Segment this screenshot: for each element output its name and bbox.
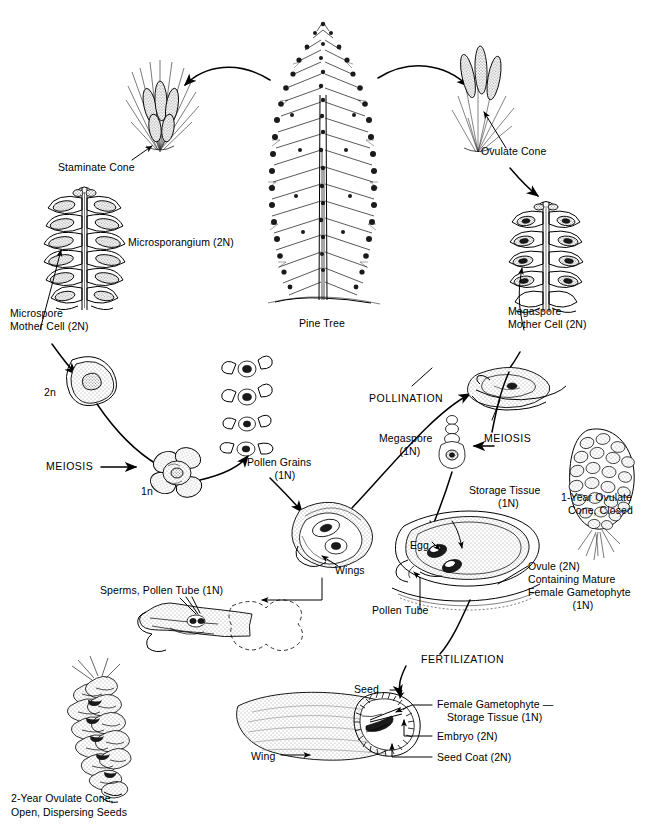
arrow-meiosis-left: [97, 404, 158, 465]
arrow-to-ovulate-section: [510, 168, 538, 196]
label-one-year-cone-line1: 1-Year Ovulate: [561, 491, 632, 504]
label-pollination: POLLINATION: [369, 392, 443, 405]
arrow-tetrad-to-pollen: [200, 456, 248, 480]
label-embryo: Embryo (2N): [437, 730, 498, 743]
label-seed: Seed: [354, 683, 379, 696]
arrow-tree-to-staminate: [185, 67, 270, 85]
label-one-year-cone-line2: Cone, Closed: [561, 504, 640, 517]
germinating-pollen-grain-illustration: [292, 502, 373, 567]
label-meiosis-left: MEIOSIS: [46, 460, 93, 473]
label-microsporangium: Microsporangium (2N): [128, 236, 234, 249]
label-pollen-grains-line2: (1N): [247, 469, 323, 482]
ovulate-cone-illustration: [452, 46, 514, 152]
label-ovule-line1: Ovule (2N): [528, 560, 580, 573]
staminate-cone-illustration: [126, 60, 199, 152]
arrow-fertilization: [399, 666, 406, 696]
label-pollen-tube: Pollen Tube: [372, 604, 429, 617]
sperms-pollen-tube-illustration: [138, 600, 303, 652]
label-female-gametophyte-line1: Female Gametophyte —: [437, 698, 553, 711]
ovule-scale-nucellus-illustration: [467, 367, 566, 410]
arrow-tree-to-ovulate: [378, 66, 468, 86]
pine-tree-illustration: [268, 22, 380, 304]
label-egg: Egg: [410, 539, 429, 552]
ovulate-cone-section-illustration: [509, 202, 583, 313]
label-ovule-line4: (1N): [528, 599, 638, 612]
arrow-to-2n-cell: [52, 344, 76, 374]
pollen-grains-1n-illustration: [220, 356, 273, 456]
leader-staminate-cone: [132, 146, 152, 160]
label-storage-tissue-line1: Storage Tissue: [469, 484, 540, 497]
label-sperms-pollen-tube: Sperms, Pollen Tube (1N): [100, 584, 223, 597]
label-megaspore-line1: Megaspore: [379, 432, 432, 445]
label-ovulate-cone: Ovulate Cone: [481, 145, 546, 158]
label-microspore-mother-cell-line1: Microspore: [10, 307, 63, 320]
label-pollen-grains-line1: Pollen Grains: [247, 456, 311, 469]
megaspore-1n-illustration: [439, 416, 465, 469]
arrow-fertilization-path: [440, 600, 470, 654]
microsporangium-section-illustration: [44, 187, 125, 310]
label-wings: Wings: [335, 564, 365, 577]
label-two-year-cone-line1: 2-Year Ovulate Cone,: [11, 792, 114, 805]
label-wing: Wing: [251, 750, 275, 763]
label-ovule-line3: Female Gametophyte: [528, 586, 631, 599]
label-seed-coat: Seed Coat (2N): [437, 751, 511, 764]
label-2n: 2n: [44, 386, 56, 399]
label-fertilization: FERTILIZATION: [421, 653, 504, 666]
leader-pollination: [412, 368, 432, 386]
label-1n: 1n: [141, 485, 153, 498]
mature-ovule-illustration: [392, 511, 540, 610]
label-pine-tree: Pine Tree: [299, 317, 345, 330]
two-year-ovulate-cone-illustration: [67, 656, 131, 802]
label-megaspore-line2: (1N): [379, 445, 441, 458]
arrow-pollen-to-germinating: [270, 478, 302, 512]
label-female-gametophyte-line2: Storage Tissue (1N): [447, 711, 542, 724]
label-storage-tissue-line2: (1N): [469, 497, 548, 510]
leader-wings-bracket: [262, 578, 322, 600]
label-megaspore-mother-cell-line2: Mother Cell (2N): [508, 318, 587, 331]
microspore-tetrad-1n: [147, 444, 204, 500]
label-two-year-cone-line2: Open, Dispersing Seeds: [11, 806, 127, 819]
microspore-mother-cell-2n: [66, 357, 116, 406]
label-microspore-mother-cell-line2: Mother Cell (2N): [10, 320, 89, 333]
label-meiosis-right: MEIOSIS: [484, 432, 531, 445]
label-staminate-cone: Staminate Cone: [58, 161, 135, 174]
label-ovule-line2: Containing Mature: [528, 573, 616, 586]
label-megaspore-mother-cell-line1: Megaspore: [508, 305, 561, 318]
